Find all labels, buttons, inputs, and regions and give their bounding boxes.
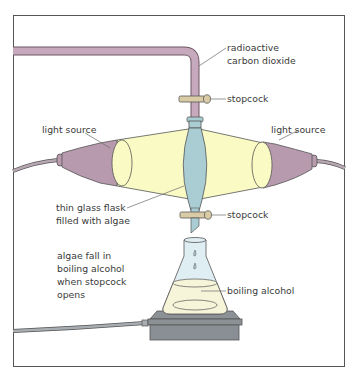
label-algae-line3: when stopcock	[57, 276, 127, 287]
label-stopcock-top: stopcock	[227, 93, 269, 104]
label-light-source-right: light source	[271, 124, 326, 135]
label-boiling-alcohol: boiling alcohol	[227, 285, 294, 296]
label-flask-line1: thin glass flask	[56, 202, 126, 213]
label-stopcock-bottom: stopcock	[227, 209, 269, 220]
label-light-source-left: light source	[42, 124, 97, 135]
label-flask-line2: filled with algae	[56, 215, 130, 226]
flask-neck	[187, 117, 203, 128]
label-algae-line2: boiling alcohol	[57, 263, 124, 274]
photosynthesis-apparatus-diagram: radioactive carbon dioxide stopcock ligh…	[0, 0, 357, 378]
label-algae-line4: opens	[57, 289, 85, 300]
label-algae-line1: algae fall in	[57, 250, 111, 261]
label-radioactive-co2-line2: carbon dioxide	[227, 55, 296, 66]
label-radioactive-co2-line1: radioactive	[227, 42, 279, 53]
stopcock-top	[179, 95, 211, 103]
diagram-canvas: radioactive carbon dioxide stopcock ligh…	[0, 0, 357, 378]
